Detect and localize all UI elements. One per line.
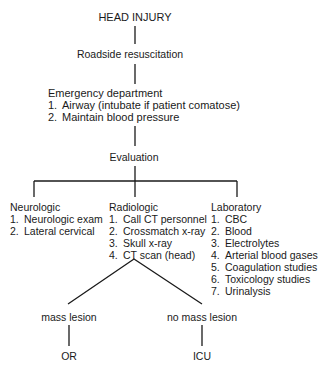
laboratory-item: 6.Toxicology studies bbox=[211, 273, 318, 285]
laboratory-item: 5.Coagulation studies bbox=[211, 261, 318, 273]
radiologic-item: 4.CT scan (head) bbox=[109, 249, 207, 261]
neurologic-item: 1.Neurologic exam bbox=[10, 213, 103, 225]
neurologic-item: 2.Lateral cervical bbox=[10, 225, 103, 237]
or-node: OR bbox=[61, 350, 77, 362]
emergency-item: 2.Maintain blood pressure bbox=[48, 111, 240, 123]
laboratory-item: 4.Arterial blood gases bbox=[211, 249, 318, 261]
radiologic-title: Radiologic bbox=[109, 201, 207, 213]
neurologic-title: Neurologic bbox=[10, 201, 103, 213]
emergency-node: Emergency department 1.Airway (intubate … bbox=[48, 87, 240, 123]
laboratory-node: Laboratory 1.CBC 2.Blood 3.Electrolytes … bbox=[211, 201, 318, 297]
laboratory-item: 2.Blood bbox=[211, 225, 318, 237]
evaluation-node: Evaluation bbox=[109, 151, 158, 163]
connector-ct-split bbox=[68, 259, 202, 304]
laboratory-title: Laboratory bbox=[211, 201, 318, 213]
radiologic-item: 2.Crossmatch x-ray bbox=[109, 225, 207, 237]
radiologic-item: 1.Call CT personnel bbox=[109, 213, 207, 225]
roadside-node: Roadside resuscitation bbox=[77, 48, 183, 60]
laboratory-item: 3.Electrolytes bbox=[211, 237, 318, 249]
mass-lesion-node: mass lesion bbox=[41, 311, 96, 323]
emergency-title: Emergency department bbox=[48, 87, 240, 99]
radiologic-item: 3.Skull x-ray bbox=[109, 237, 207, 249]
laboratory-item: 1.CBC bbox=[211, 213, 318, 225]
no-mass-lesion-node: no mass lesion bbox=[167, 311, 237, 323]
laboratory-item: 7.Urinalysis bbox=[211, 285, 318, 297]
root-node: HEAD INJURY bbox=[98, 11, 171, 23]
icu-node: ICU bbox=[193, 350, 211, 362]
radiologic-node: Radiologic 1.Call CT personnel 2.Crossma… bbox=[109, 201, 207, 261]
emergency-item: 1.Airway (intubate if patient comatose) bbox=[48, 99, 240, 111]
neurologic-node: Neurologic 1.Neurologic exam 2.Lateral c… bbox=[10, 201, 103, 237]
